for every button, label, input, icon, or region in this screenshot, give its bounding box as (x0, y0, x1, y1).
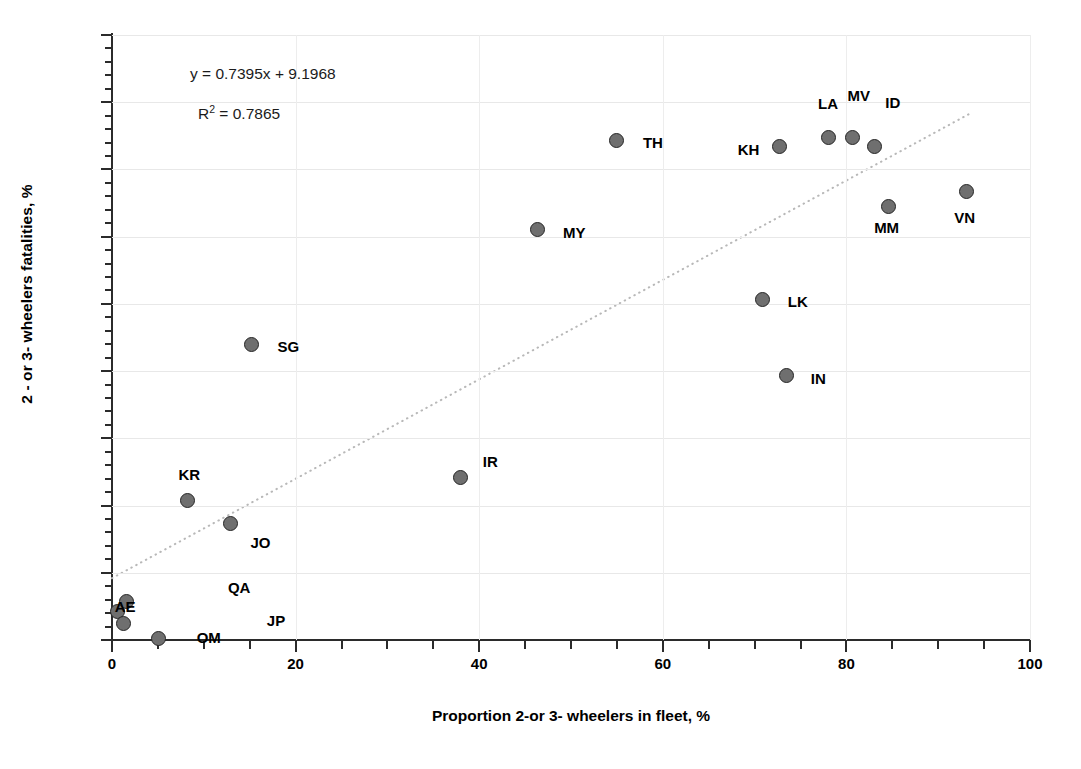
y-tick-minor (105, 343, 112, 345)
data-point-label: IR (483, 453, 498, 470)
x-tick-major (845, 641, 847, 652)
y-tick-minor (105, 330, 112, 332)
x-tick-minor (983, 641, 985, 649)
y-tick-minor (105, 289, 112, 291)
r-squared-label: R2 = 0.7865 (198, 103, 280, 123)
y-tick-major (101, 505, 112, 507)
data-point-label: AE (0, 598, 136, 615)
x-tick-label: 100 (1000, 655, 1060, 672)
y-tick-minor (105, 531, 112, 533)
x-tick-minor (937, 641, 939, 649)
y-tick-minor (105, 47, 112, 49)
y-tick-minor (105, 263, 112, 265)
data-point-label: JO (250, 534, 270, 551)
x-tick-minor (570, 641, 572, 649)
y-tick-major (101, 370, 112, 372)
data-point[interactable] (453, 470, 468, 485)
y-tick-major (101, 34, 112, 36)
y-tick-major (101, 437, 112, 439)
x-tick-label: 20 (266, 655, 326, 672)
gridline-horizontal (112, 438, 1030, 439)
x-tick-minor (249, 641, 251, 649)
y-tick-minor (105, 397, 112, 399)
data-point[interactable] (821, 130, 836, 145)
data-point-label: VN (925, 209, 1005, 226)
data-point-label: SG (278, 338, 300, 355)
gridline-vertical (479, 35, 480, 640)
x-tick-label: 80 (816, 655, 876, 672)
data-point-label: MM (847, 219, 927, 236)
y-tick-major (101, 303, 112, 305)
data-point[interactable] (845, 130, 860, 145)
x-tick-major (478, 641, 480, 652)
x-tick-minor (891, 641, 893, 649)
x-tick-minor (616, 641, 618, 649)
y-tick-minor (105, 626, 112, 628)
x-tick-label: 40 (449, 655, 509, 672)
gridline-vertical (1030, 35, 1031, 640)
data-point[interactable] (116, 616, 131, 631)
x-tick-minor (524, 641, 526, 649)
data-point-label: JP (267, 612, 285, 629)
data-point-label: LK (788, 293, 808, 310)
x-tick-major (662, 641, 664, 652)
y-tick-minor (105, 249, 112, 251)
y-tick-minor (105, 222, 112, 224)
x-tick-minor (800, 641, 802, 649)
y-tick-major (101, 168, 112, 170)
data-point-label: ID (853, 94, 933, 111)
y-tick-minor (105, 115, 112, 117)
gridline-vertical (846, 35, 847, 640)
x-tick-major (295, 641, 297, 652)
gridline-horizontal (112, 304, 1030, 305)
y-tick-major (101, 101, 112, 103)
x-axis-title: Proportion 2-or 3- wheelers in fleet, % (112, 707, 1030, 725)
x-tick-label: 60 (633, 655, 693, 672)
data-point-label: OM (197, 629, 221, 646)
data-point-label: KR (149, 466, 229, 483)
y-tick-minor (105, 195, 112, 197)
y-tick-minor (105, 451, 112, 453)
y-tick-minor (105, 128, 112, 130)
x-tick-minor (754, 641, 756, 649)
y-tick-minor (105, 585, 112, 587)
y-tick-minor (105, 209, 112, 211)
y-tick-minor (105, 384, 112, 386)
y-tick-minor (105, 88, 112, 90)
y-tick-minor (105, 410, 112, 412)
data-point[interactable] (151, 631, 166, 646)
y-tick-minor (105, 464, 112, 466)
data-point-label: QA (228, 579, 251, 596)
x-tick-minor (386, 641, 388, 649)
data-point[interactable] (867, 139, 882, 154)
data-point[interactable] (779, 368, 794, 383)
x-tick-minor (708, 641, 710, 649)
x-tick-minor (432, 641, 434, 649)
x-tick-major (111, 641, 113, 652)
gridline-vertical (663, 35, 664, 640)
y-tick-minor (105, 182, 112, 184)
y-tick-minor (105, 478, 112, 480)
y-tick-minor (105, 61, 112, 63)
x-tick-major (1029, 641, 1031, 652)
data-point[interactable] (530, 222, 545, 237)
data-point[interactable] (755, 292, 770, 307)
gridline-horizontal (112, 35, 1030, 36)
y-tick-minor (105, 357, 112, 359)
gridline-horizontal (112, 573, 1030, 574)
y-tick-minor (105, 491, 112, 493)
data-point-label: IN (811, 370, 826, 387)
x-tick-minor (341, 641, 343, 649)
y-tick-minor (105, 276, 112, 278)
regression-equation: y = 0.7395x + 9.1968 (190, 65, 336, 83)
gridline-horizontal (112, 169, 1030, 170)
chart-container: 2 - or 3- wheelers fatalities, % Proport… (0, 0, 1081, 769)
data-point[interactable] (959, 184, 974, 199)
data-point[interactable] (223, 516, 238, 531)
y-tick-minor (105, 518, 112, 520)
data-point[interactable] (881, 199, 896, 214)
y-tick-major (101, 236, 112, 238)
data-point[interactable] (772, 139, 787, 154)
gridline-horizontal (112, 371, 1030, 372)
data-point[interactable] (244, 337, 259, 352)
